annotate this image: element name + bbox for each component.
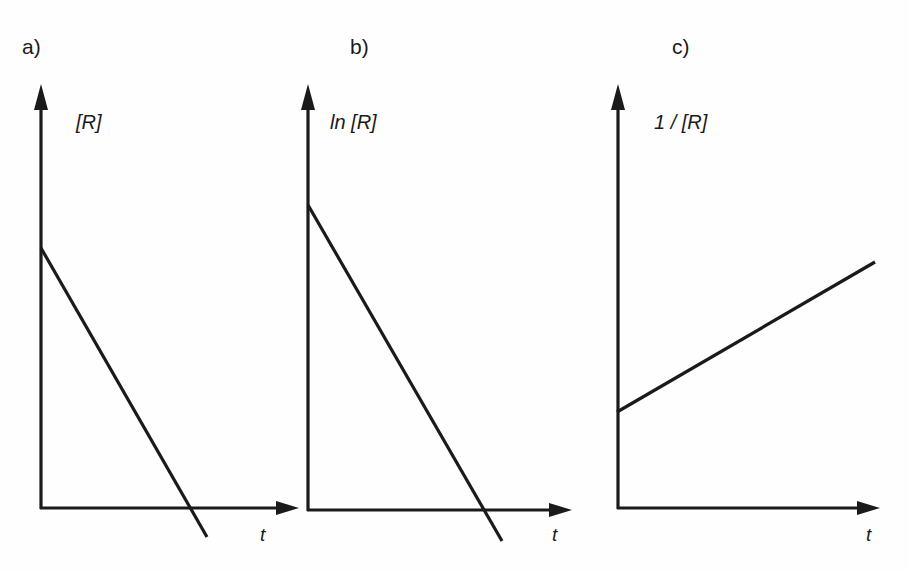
panel-c-plot (600, 0, 909, 571)
panel-b-y-axis-arrowhead (301, 84, 315, 110)
panel-c-data-line (617, 262, 875, 412)
panel-a: a) [R] t (0, 0, 300, 571)
panel-a-y-axis-arrowhead (34, 84, 48, 110)
reaction-order-plots-figure: a) [R] t b) ln [R] t (0, 0, 909, 571)
panel-b-x-axis-arrowhead (549, 503, 572, 517)
panel-a-plot (0, 0, 300, 571)
panel-a-data-line (41, 248, 207, 537)
panel-b-plot (290, 0, 590, 571)
panel-c: c) 1 / [R] t (600, 0, 909, 571)
panel-b: b) ln [R] t (290, 0, 590, 571)
panel-c-x-axis-arrowhead (857, 501, 880, 515)
panel-c-y-axis-arrowhead (611, 84, 625, 110)
panel-b-data-line (308, 205, 502, 541)
